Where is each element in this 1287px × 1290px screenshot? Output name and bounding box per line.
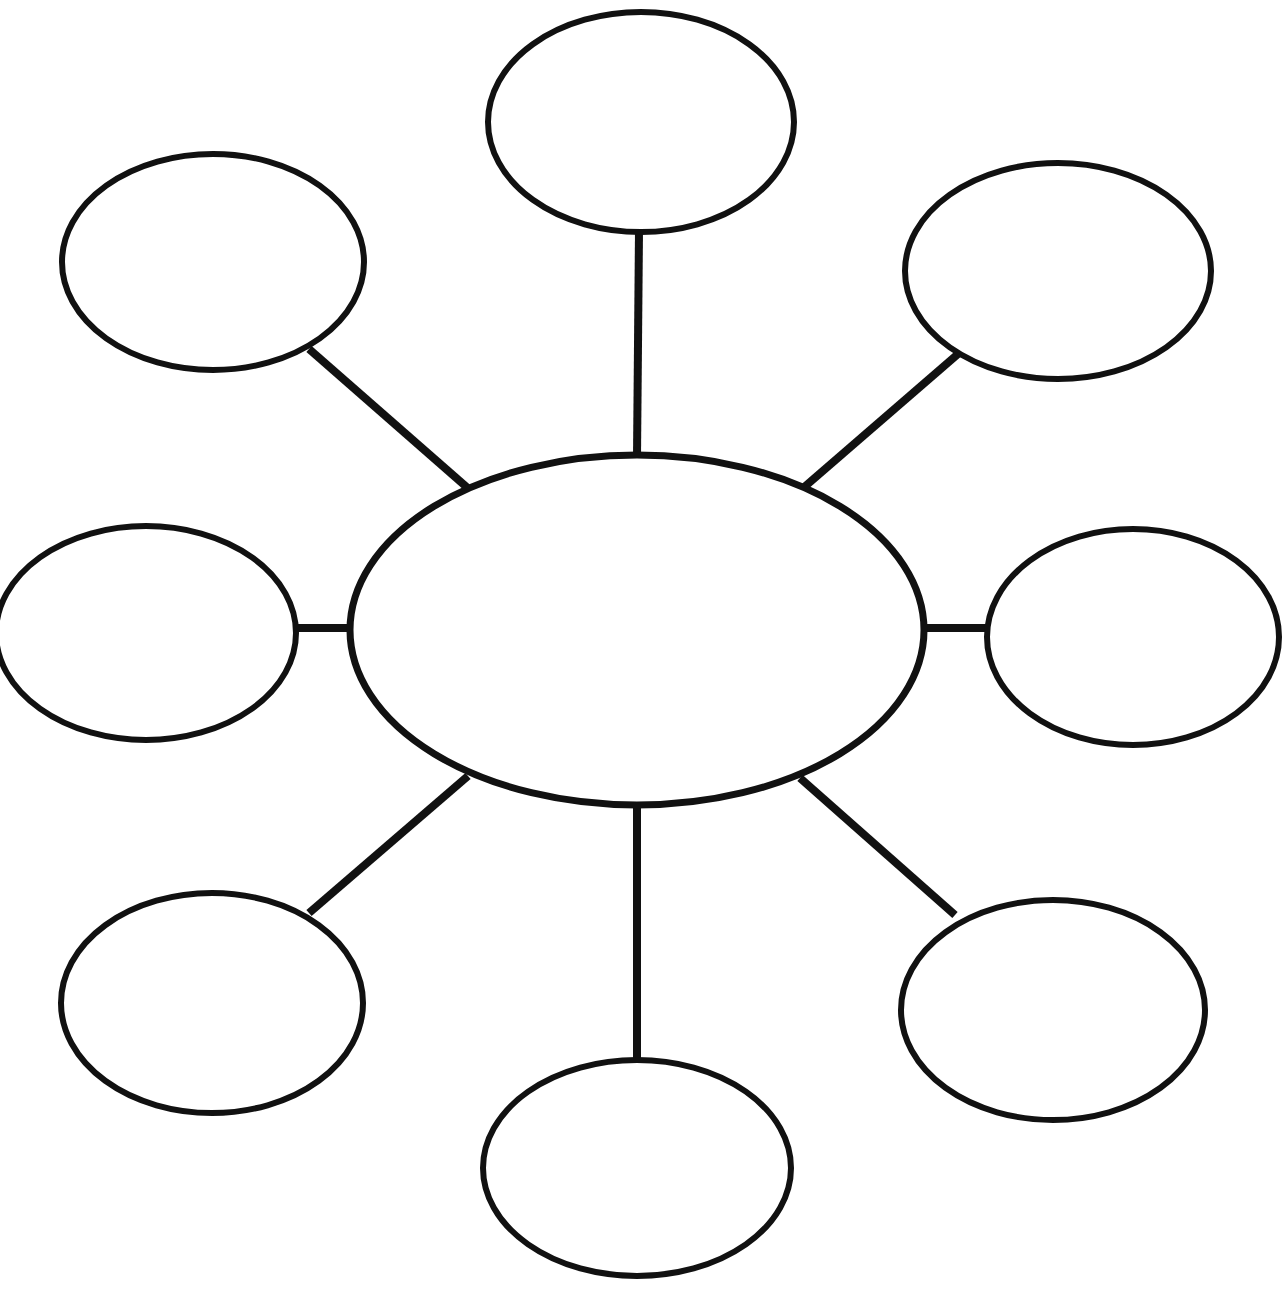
- satellite-node-right[interactable]: [987, 529, 1279, 745]
- satellite-node-top-left[interactable]: [62, 154, 364, 370]
- organizer-canvas: [0, 0, 1287, 1290]
- satellite-node-top-right[interactable]: [905, 163, 1211, 379]
- node-ellipse-right[interactable]: [987, 529, 1279, 745]
- satellite-node-left[interactable]: [0, 526, 296, 740]
- connector-center-to-top-right: [802, 354, 958, 489]
- organizer-svg: [0, 0, 1287, 1290]
- connector-center-to-bottom-right: [800, 778, 955, 915]
- connector-center-to-top: [637, 231, 639, 457]
- satellite-node-bottom[interactable]: [483, 1060, 791, 1276]
- center-node[interactable]: [350, 455, 924, 805]
- connector-center-to-bottom-left: [309, 776, 468, 913]
- node-ellipse-top-right[interactable]: [905, 163, 1211, 379]
- satellite-node-bottom-left[interactable]: [61, 893, 363, 1113]
- node-ellipse-center[interactable]: [350, 455, 924, 805]
- connector-center-to-top-left: [309, 349, 470, 490]
- node-ellipse-top-left[interactable]: [62, 154, 364, 370]
- satellite-node-bottom-right[interactable]: [901, 900, 1205, 1120]
- node-ellipse-bottom-right[interactable]: [901, 900, 1205, 1120]
- node-ellipse-top[interactable]: [488, 12, 794, 232]
- node-ellipse-left[interactable]: [0, 526, 296, 740]
- node-ellipse-bottom[interactable]: [483, 1060, 791, 1276]
- node-ellipse-bottom-left[interactable]: [61, 893, 363, 1113]
- satellite-node-top[interactable]: [488, 12, 794, 232]
